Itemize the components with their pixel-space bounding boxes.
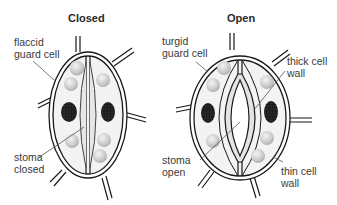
nucleus-left-closed bbox=[61, 102, 77, 122]
stoma-open-label: stoma open bbox=[162, 154, 191, 178]
closed-stoma bbox=[38, 36, 146, 200]
stoma-closed-label: stoma closed bbox=[14, 151, 44, 175]
thin-cell-wall-label: thin cell wall bbox=[281, 165, 317, 189]
nucleus-right-open bbox=[264, 101, 278, 123]
stomata-diagram: Closed Open flaccid guard cell stoma clo… bbox=[0, 0, 337, 205]
flaccid-guard-cell-label: flaccid guard cell bbox=[14, 36, 60, 60]
nucleus-right-closed bbox=[101, 102, 115, 122]
open-title: Open bbox=[227, 12, 255, 24]
thick-cell-wall-label: thick cell wall bbox=[287, 55, 327, 79]
nucleus-left-open bbox=[201, 103, 215, 123]
turgid-guard-cell-label: turgid guard cell bbox=[162, 35, 208, 59]
closed-title: Closed bbox=[68, 12, 105, 24]
